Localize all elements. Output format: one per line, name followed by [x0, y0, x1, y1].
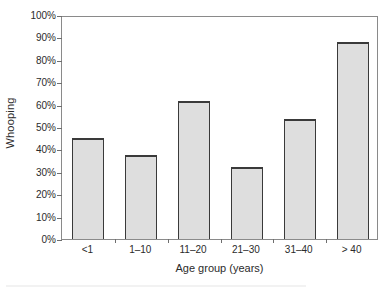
y-axis-tick-label: 20% [20, 190, 56, 200]
y-axis-tick-label: 100% [20, 11, 56, 21]
y-axis-tick-label: 30% [20, 168, 56, 178]
x-axis-minor-tick [168, 239, 169, 243]
y-axis-tick-labels: 0%10%20%30%40%50%60%70%80%90%100% [20, 16, 56, 240]
y-axis-tick-label: 70% [20, 78, 56, 88]
x-axis-tick-label: 11–20 [180, 244, 207, 256]
y-axis-tick-label: 10% [20, 213, 56, 223]
x-axis-minor-tick [115, 239, 116, 243]
y-axis-tick-mark [57, 38, 62, 39]
bar [72, 138, 104, 239]
y-axis-tick-mark [57, 83, 62, 84]
y-axis-tick-mark [57, 173, 62, 174]
bar [337, 42, 369, 239]
plot-area [62, 17, 377, 239]
x-axis-minor-tick [221, 239, 222, 243]
x-axis-tick-label: > 40 [342, 244, 362, 256]
y-axis-tick-mark [57, 16, 62, 17]
bar-chart-figure: Whooping 0%10%20%30%40%50%60%70%80%90%10… [0, 0, 392, 289]
y-axis-tick-label: 90% [20, 33, 56, 43]
x-axis-tick-label: 1–10 [129, 244, 151, 256]
y-axis-title: Whooping [0, 0, 20, 245]
x-axis-tick-label: 31–40 [285, 244, 313, 256]
x-axis-minor-tick [326, 239, 327, 243]
x-axis-tick-labels: <11–1011–2021–3031–40> 40 [61, 244, 378, 260]
plot-frame [61, 16, 378, 240]
y-axis-tick-mark [57, 240, 62, 241]
y-axis-tick-label: 50% [20, 123, 56, 133]
y-axis-tick-label: 0% [20, 235, 56, 245]
bar [231, 167, 263, 239]
bar [284, 119, 316, 239]
y-axis-title-label: Whooping [4, 97, 16, 148]
caption-rule [6, 285, 306, 287]
x-axis-title: Age group (years) [61, 262, 378, 274]
y-axis-tick-mark [57, 195, 62, 196]
y-axis-tick-mark [57, 61, 62, 62]
bar [125, 155, 157, 239]
y-axis-tick-mark [57, 150, 62, 151]
x-axis-minor-tick [273, 239, 274, 243]
x-axis-tick-label: <1 [82, 244, 93, 256]
x-axis-tick-label: 21–30 [232, 244, 260, 256]
y-axis-tick-label: 60% [20, 101, 56, 111]
y-axis-tick-mark [57, 106, 62, 107]
bar [178, 101, 210, 239]
y-axis-tick-label: 40% [20, 145, 56, 155]
y-axis-tick-mark [57, 218, 62, 219]
y-axis-tick-label: 80% [20, 56, 56, 66]
y-axis-tick-mark [57, 128, 62, 129]
